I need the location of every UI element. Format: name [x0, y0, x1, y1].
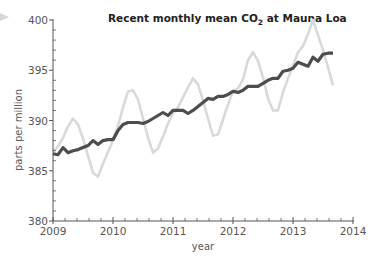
y-axis-title: parts per million	[13, 89, 24, 171]
series-line-0	[53, 20, 333, 177]
x-tick-label: 2013	[280, 225, 307, 237]
x-tick-label: 2009	[40, 225, 67, 237]
x-tick-label: 2010	[100, 225, 127, 237]
corner-arrow-icon	[0, 13, 9, 21]
y-tick-label: 395	[28, 64, 48, 76]
x-tick-label: 2014	[340, 225, 367, 237]
x-tick-label: 2011	[160, 225, 187, 237]
y-tick-label: 390	[28, 115, 48, 127]
x-axis-title: year	[192, 241, 215, 252]
series-layer	[53, 20, 333, 177]
x-tick-label: 2012	[220, 225, 247, 237]
co2-line-chart: Recent monthly mean CO2 at Mauna Loa 380…	[0, 0, 374, 264]
y-tick-label: 385	[28, 165, 48, 177]
series-line-1	[53, 53, 333, 155]
y-tick-label: 400	[28, 14, 48, 26]
